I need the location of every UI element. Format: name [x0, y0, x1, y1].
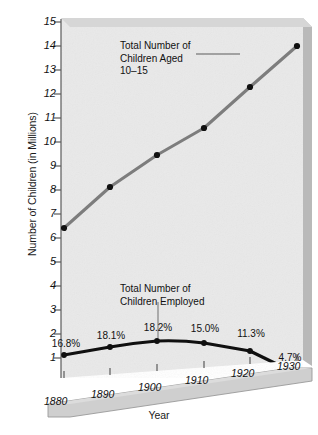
annotation-line: Total Number of — [120, 40, 191, 53]
y-tick-label: 6 — [34, 232, 56, 243]
data-point-aged-1920 — [247, 84, 253, 90]
y-tick-label: 10 — [34, 136, 56, 147]
data-point-employed-1910 — [201, 340, 207, 346]
y-tick-label: 8 — [34, 184, 56, 195]
data-point-aged-1910 — [201, 125, 207, 131]
y-tick-label: 9 — [34, 160, 56, 171]
point-label-1920: 11.3% — [237, 328, 265, 339]
y-tick-label: 11 — [34, 112, 56, 123]
y-tick-label: 7 — [34, 208, 56, 219]
data-point-aged-1930 — [294, 43, 300, 49]
point-label-1930: 4.7% — [279, 352, 302, 363]
panel-right-bevel — [303, 18, 312, 366]
data-point-employed-1900 — [154, 338, 160, 344]
x-axis-title: Year — [0, 409, 318, 421]
point-label-1880: 16.8% — [52, 338, 80, 349]
data-point-aged-1900 — [154, 152, 160, 158]
y-tick-label: 4 — [34, 280, 56, 291]
x-tick-label: 1890 — [91, 388, 114, 400]
annotation-children-employed: Total Number of Children Employed — [120, 283, 205, 308]
y-tick-label: 3 — [34, 304, 56, 315]
y-tick-label-group: 15 14 13 12 11 10 9 8 7 6 5 4 3 2 1 — [24, 0, 56, 435]
y-tick-label: 14 — [34, 40, 56, 51]
annotation-line: Total Number of — [120, 283, 205, 296]
y-tick-label: 15 — [34, 16, 56, 27]
y-tick-label: 1 — [34, 352, 56, 363]
annotation-line: Children Employed — [120, 296, 205, 309]
annotation-line: Children Aged — [120, 53, 191, 66]
annotation-line: 10–15 — [120, 65, 191, 78]
chart-figure: Number of Children (in Millions) 15 14 1… — [0, 0, 318, 435]
x-tick-label: 1880 — [44, 395, 67, 407]
data-point-employed-1890 — [107, 344, 113, 350]
x-tick-label: 1910 — [185, 374, 208, 386]
annotation-children-aged: Total Number of Children Aged 10–15 — [120, 40, 191, 78]
point-label-1890: 18.1% — [97, 330, 125, 341]
y-tick-label: 5 — [34, 256, 56, 267]
data-point-aged-1880 — [61, 225, 67, 231]
y-tick-label: 12 — [34, 88, 56, 99]
panel-top-bevel — [61, 18, 312, 27]
y-tick-label: 13 — [34, 64, 56, 75]
x-tick-label: 1920 — [231, 367, 254, 379]
x-tick-label: 1900 — [138, 381, 161, 393]
point-label-1910: 15.0% — [191, 323, 219, 334]
data-point-employed-1880 — [61, 352, 67, 358]
data-point-aged-1890 — [107, 184, 113, 190]
point-label-1900: 18.2% — [144, 322, 172, 333]
data-point-employed-1920 — [247, 348, 253, 354]
